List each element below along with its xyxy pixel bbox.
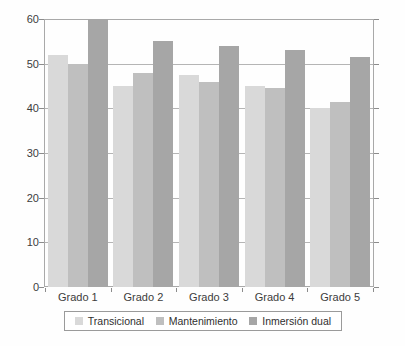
bar: [68, 64, 88, 287]
bar-groups: [45, 20, 373, 287]
y-axis-tick-label: 40: [5, 103, 39, 114]
x-axis-tick-mark: [373, 288, 374, 292]
legend-label: Mantenimiento: [169, 315, 238, 327]
x-axis-tick-label: Grado 4: [242, 291, 308, 303]
bar-group: [307, 20, 373, 287]
bar: [113, 86, 133, 287]
y-axis-tick-mark: [374, 108, 379, 109]
bar: [133, 73, 153, 287]
bar-group: [242, 20, 308, 287]
bar-group: [111, 20, 177, 287]
x-axis-labels: Grado 1Grado 2Grado 3Grado 4Grado 5: [45, 291, 373, 303]
legend-item: Inmersión dual: [249, 315, 331, 327]
chart-legend: TransicionalMantenimientoInmersión dual: [64, 311, 342, 331]
legend-item: Mantenimiento: [156, 315, 238, 327]
bar: [245, 86, 265, 287]
x-axis-tick-label: Grado 5: [307, 291, 373, 303]
y-axis-tick-label: 30: [5, 148, 39, 159]
bar-chart: 0102030405060 Grado 1Grado 2Grado 3Grado…: [0, 0, 405, 346]
x-axis-tick-label: Grado 1: [45, 291, 111, 303]
bar: [48, 55, 68, 287]
legend-label: Inmersión dual: [262, 315, 331, 327]
bar: [219, 46, 239, 287]
bar: [88, 19, 108, 287]
bar: [350, 57, 370, 287]
y-axis-tick-mark: [39, 198, 44, 199]
bar: [330, 102, 350, 287]
y-axis-tick-mark: [39, 242, 44, 243]
bar: [179, 75, 199, 287]
legend-label: Transicional: [88, 315, 144, 327]
y-axis-tick-label: 50: [5, 58, 39, 69]
bar: [199, 82, 219, 287]
y-axis-tick-mark: [374, 19, 379, 20]
y-axis-tick-mark: [39, 108, 44, 109]
x-axis-tick-label: Grado 3: [176, 291, 242, 303]
y-axis: 0102030405060: [0, 19, 39, 287]
legend-swatch-icon: [156, 317, 164, 325]
y-axis-tick-label: 0: [5, 282, 39, 293]
bar: [310, 108, 330, 287]
bar: [265, 88, 285, 287]
bar-group: [176, 20, 242, 287]
y-axis-tick-mark: [39, 153, 44, 154]
y-axis-tick-mark: [374, 153, 379, 154]
y-axis-tick-mark: [374, 198, 379, 199]
y-axis-tick-label: 10: [5, 237, 39, 248]
legend-swatch-icon: [249, 317, 257, 325]
y-axis-tick-mark: [374, 64, 379, 65]
y-axis-tick-mark: [374, 287, 379, 288]
legend-item: Transicional: [75, 315, 144, 327]
y-axis-tick-mark: [39, 64, 44, 65]
y-axis-tick-mark: [374, 242, 379, 243]
y-axis-tick-mark: [39, 287, 44, 288]
y-axis-tick-label: 20: [5, 192, 39, 203]
x-axis-tick-label: Grado 2: [111, 291, 177, 303]
bar: [153, 41, 173, 287]
y-axis-tick-mark: [39, 19, 44, 20]
bar-group: [45, 20, 111, 287]
y-axis-tick-label: 60: [5, 14, 39, 25]
bar: [285, 50, 305, 287]
legend-swatch-icon: [75, 317, 83, 325]
